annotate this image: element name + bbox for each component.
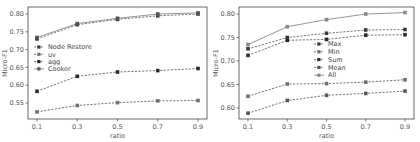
chart-2: 0.600.650.700.750.800.10.30.50.70.9ratio…: [212, 7, 414, 140]
legend: MaxMinSumMeanAll: [314, 40, 346, 79]
y-axis-label: Micro-F1: [1, 49, 9, 77]
x-tick-label: 0.9: [193, 123, 203, 131]
y-tick-label: 0.55: [10, 99, 24, 107]
chart-1: 0.550.600.650.700.750.800.10.30.50.70.9r…: [1, 7, 207, 140]
legend: Node RestoreuvaggCooker: [34, 43, 92, 73]
data-point: [75, 22, 79, 26]
legend-label: Cooker: [48, 65, 71, 73]
data-point: [364, 12, 368, 16]
data-point: [285, 99, 289, 103]
data-point: [364, 80, 368, 84]
data-point: [116, 101, 120, 105]
x-tick-label: 0.1: [243, 123, 253, 131]
data-point: [364, 92, 368, 96]
legend-label: Sum: [328, 56, 343, 64]
data-point: [403, 28, 407, 32]
data-point: [156, 69, 160, 73]
data-point: [246, 43, 250, 47]
data-point: [196, 11, 200, 15]
y-tick-label: 0.60: [221, 104, 235, 112]
data-point: [116, 16, 120, 20]
y-tick-label: 0.70: [10, 46, 24, 54]
figure: 0.550.600.650.700.750.800.10.30.50.70.9r…: [0, 0, 420, 142]
data-point: [325, 82, 329, 86]
x-tick-label: 0.7: [153, 123, 163, 131]
data-point: [403, 11, 407, 15]
legend-label: Max: [328, 40, 342, 48]
data-point: [246, 47, 250, 51]
data-point: [246, 94, 250, 98]
data-point: [325, 18, 329, 22]
chart-canvas: 0.550.600.650.700.750.800.10.30.50.70.9r…: [0, 0, 420, 142]
data-point: [246, 54, 250, 58]
y-tick-label: 0.65: [10, 64, 24, 72]
y-tick-label: 0.75: [10, 28, 24, 36]
series-sum: [246, 33, 407, 57]
y-tick-label: 0.75: [221, 34, 235, 42]
data-point: [75, 75, 79, 79]
x-tick-label: 0.3: [72, 123, 82, 131]
legend-label: All: [328, 71, 336, 79]
series-mean: [246, 89, 407, 115]
x-tick-label: 0.5: [112, 123, 122, 131]
data-point: [403, 89, 407, 93]
data-point: [364, 28, 368, 32]
data-point: [325, 31, 329, 35]
legend-label: Min: [328, 48, 340, 56]
x-tick-label: 0.3: [282, 123, 292, 131]
x-tick-label: 0.9: [400, 123, 410, 131]
x-tick-label: 0.5: [321, 123, 331, 131]
legend-label: Mean: [328, 64, 346, 72]
data-point: [285, 39, 289, 43]
x-axis-label: ratio: [110, 132, 125, 140]
data-point: [364, 33, 368, 37]
series-uv: [35, 99, 200, 114]
data-point: [156, 99, 160, 103]
x-axis-label: ratio: [319, 132, 334, 140]
y-tick-label: 0.80: [221, 10, 235, 18]
y-tick-label: 0.65: [221, 81, 235, 89]
axes-frame: [239, 7, 414, 119]
data-point: [35, 89, 39, 93]
x-tick-label: 0.1: [32, 123, 42, 131]
data-point: [156, 12, 160, 16]
data-point: [75, 104, 79, 108]
data-point: [403, 78, 407, 82]
data-point: [196, 67, 200, 71]
y-axis-label: Micro-F1: [212, 49, 220, 77]
y-tick-label: 0.60: [10, 81, 24, 89]
y-tick-label: 0.80: [10, 10, 24, 18]
data-point: [35, 36, 39, 40]
data-point: [325, 94, 329, 98]
y-tick-label: 0.70: [221, 57, 235, 65]
data-point: [35, 110, 39, 114]
data-point: [116, 70, 120, 74]
data-point: [196, 99, 200, 103]
x-tick-label: 0.7: [361, 123, 371, 131]
data-point: [246, 111, 250, 115]
data-point: [285, 82, 289, 86]
data-point: [285, 25, 289, 29]
data-point: [403, 33, 407, 37]
